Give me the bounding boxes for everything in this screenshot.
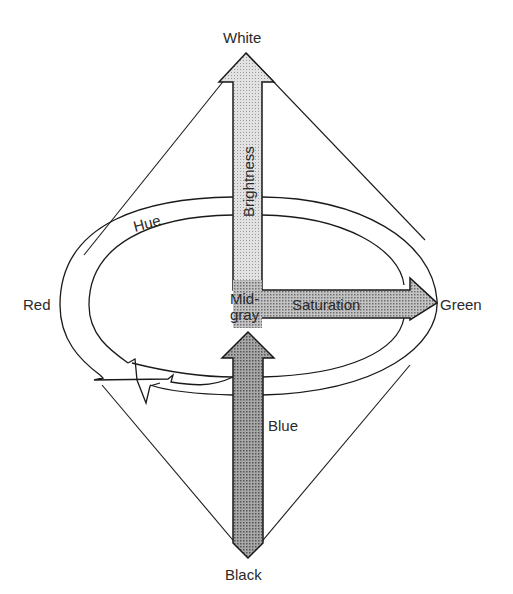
label-red: Red — [23, 296, 51, 313]
label-black: Black — [225, 566, 262, 583]
label-gray: gray — [230, 306, 260, 323]
color-solid-diagram: White Black Red Green Blue Hue Brightnes… — [0, 0, 513, 594]
label-saturation: Saturation — [292, 296, 360, 313]
label-brightness: Brightness — [240, 146, 257, 217]
label-hue: Hue — [131, 211, 162, 235]
blue-black-arrow — [222, 332, 274, 558]
label-white: White — [223, 29, 261, 46]
label-green: Green — [440, 296, 482, 313]
label-mid: Mid- — [230, 290, 259, 307]
label-blue: Blue — [268, 417, 298, 434]
